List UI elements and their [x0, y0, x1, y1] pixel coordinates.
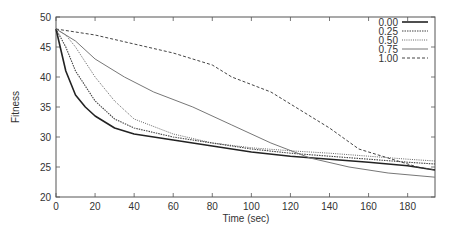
- y-axis-title: Fitness: [10, 91, 21, 123]
- x-tick-label: 60: [168, 201, 180, 212]
- x-tick-label: 0: [53, 201, 59, 212]
- y-tick-label: 35: [40, 102, 52, 113]
- x-tick-label: 100: [243, 201, 260, 212]
- x-tick-label: 40: [129, 201, 141, 212]
- legend-label: 1.00: [379, 53, 399, 64]
- x-tick-label: 180: [399, 201, 416, 212]
- y-tick-label: 50: [40, 12, 52, 23]
- x-tick-label: 120: [282, 201, 299, 212]
- x-tick-label: 80: [207, 201, 219, 212]
- x-tick-label: 160: [360, 201, 377, 212]
- y-axis: 20253035404550: [40, 12, 435, 203]
- y-tick-label: 30: [40, 132, 52, 143]
- x-tick-label: 140: [321, 201, 338, 212]
- x-axis: 020406080100120140160180: [53, 17, 416, 212]
- y-tick-label: 40: [40, 72, 52, 83]
- fitness-line-chart: 020406080100120140160180 20253035404550 …: [0, 0, 455, 239]
- x-tick-label: 20: [90, 201, 102, 212]
- x-axis-title: Time (sec): [223, 213, 270, 224]
- y-tick-label: 45: [40, 42, 52, 53]
- y-tick-label: 20: [40, 192, 52, 203]
- y-tick-label: 25: [40, 162, 52, 173]
- legend: 0.000.250.500.751.00: [379, 17, 428, 64]
